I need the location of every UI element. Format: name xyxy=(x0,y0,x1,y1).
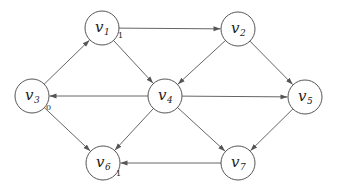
node-subscript: 4 xyxy=(166,95,173,105)
edge-v2-to-v5 xyxy=(250,41,293,84)
node-label: v xyxy=(25,86,34,104)
node-annotation: 1 xyxy=(118,31,123,40)
edge-v5-to-v7 xyxy=(250,109,292,151)
edge-v4-to-v5 xyxy=(182,96,288,97)
node-annotation: 1 xyxy=(116,169,121,178)
directed-graph: v11v2v30v4v5v61v7 xyxy=(0,0,337,189)
edge-v4-to-v6 xyxy=(115,108,154,150)
node-label: v xyxy=(96,153,105,171)
edge-v1-to-v4 xyxy=(114,40,154,83)
node-v1: v11 xyxy=(85,11,123,45)
node-label: v xyxy=(298,87,307,105)
node-subscript: 2 xyxy=(239,28,246,38)
node-annotation: 0 xyxy=(46,103,51,112)
node-v7: v7 xyxy=(221,146,255,180)
node-v4: v4 xyxy=(148,79,182,113)
node-v6: v61 xyxy=(86,146,121,180)
node-subscript: 5 xyxy=(307,96,313,106)
node-label: v xyxy=(158,86,167,104)
node-subscript: 6 xyxy=(105,162,111,172)
edge-v3-to-v6 xyxy=(44,108,90,151)
node-subscript: 3 xyxy=(34,95,40,105)
edge-v1-to-v2 xyxy=(119,28,221,29)
node-label: v xyxy=(231,19,240,37)
node-v2: v2 xyxy=(221,12,255,46)
node-v3: v30 xyxy=(15,79,51,113)
edge-v3-to-v1 xyxy=(44,40,89,84)
node-v5: v5 xyxy=(288,80,322,114)
node-subscript: 1 xyxy=(104,27,110,37)
edge-v2-to-v4 xyxy=(178,40,226,84)
edge-v4-to-v7 xyxy=(178,107,226,151)
node-label: v xyxy=(231,153,240,171)
node-subscript: 7 xyxy=(240,162,246,172)
node-label: v xyxy=(95,18,104,36)
